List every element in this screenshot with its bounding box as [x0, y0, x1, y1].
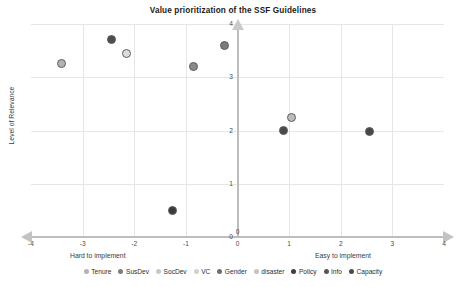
legend-marker-icon: [217, 269, 222, 274]
legend-item-tenure[interactable]: Tenure: [84, 268, 112, 275]
x-tick-label: 0: [228, 240, 248, 247]
x-tick-label: -1: [176, 240, 196, 247]
datapoint-tenure[interactable]: [57, 59, 66, 68]
legend-marker-icon: [84, 269, 89, 274]
y-tick-label: 4: [221, 20, 233, 27]
legend-item-policy[interactable]: Policy: [291, 268, 316, 275]
y-tick-label: 3: [221, 73, 233, 80]
gridline-x--3: [83, 24, 84, 237]
legend-item-label: Capacity: [357, 268, 383, 275]
legend-item-susdev[interactable]: SusDev: [118, 268, 149, 275]
legend-item-label: SusDev: [126, 268, 149, 275]
legend-item-vc[interactable]: VC: [194, 268, 211, 275]
x-tick-label: -2: [124, 240, 144, 247]
legend-item-info[interactable]: Info: [324, 268, 343, 275]
x-axis-label-left: Hard to implement: [70, 252, 126, 259]
x-axis-label-right: Easy to implement: [315, 252, 371, 259]
legend-marker-icon: [118, 269, 123, 274]
x-tick-label: 4: [434, 240, 454, 247]
y-tick-label: 2: [221, 127, 233, 134]
legend-item-label: Policy: [299, 268, 317, 275]
legend-item-socdev[interactable]: SocDev: [156, 268, 187, 275]
legend-marker-icon: [156, 269, 161, 274]
x-tick-label: 1: [279, 240, 299, 247]
legend-marker-icon: [254, 269, 259, 274]
x-tick-label: 3: [382, 240, 402, 247]
datapoint-disaster[interactable]: [168, 206, 177, 215]
chart-title: Value prioritization of the SSF Guidelin…: [0, 6, 466, 15]
y-axis-label: Level of Relevance: [8, 66, 15, 166]
datapoint-gender[interactable]: [220, 41, 229, 50]
datapoint-vc[interactable]: [189, 62, 198, 71]
y-axis-line: [237, 28, 239, 238]
legend-item-label: VC: [201, 268, 210, 275]
datapoint-info[interactable]: [287, 113, 296, 122]
datapoint-socdev[interactable]: [122, 49, 131, 58]
x-tick-label: -3: [73, 240, 93, 247]
legend-marker-icon: [324, 269, 329, 274]
y-axis-up-arrow-icon: [232, 19, 244, 30]
legend-marker-icon: [291, 269, 296, 274]
legend-item-label: SocDev: [164, 268, 187, 275]
legend-item-capacity[interactable]: Capacity: [349, 268, 382, 275]
legend-marker-icon: [194, 269, 199, 274]
gridline-x-1: [289, 24, 290, 237]
y-tick-label: 1: [221, 180, 233, 187]
legend-item-label: disaster: [261, 268, 284, 275]
legend-marker-icon: [349, 269, 354, 274]
legend-item-label: Gender: [225, 268, 247, 275]
datapoint-policy[interactable]: [279, 126, 288, 135]
gridline-x-2: [341, 24, 342, 237]
gridline-x-3: [392, 24, 393, 237]
legend-item-gender[interactable]: Gender: [217, 268, 247, 275]
x-tick-label: 2: [331, 240, 351, 247]
y-tick-label: 0: [221, 233, 233, 240]
gridline-x--1: [186, 24, 187, 237]
legend-item-label: Info: [331, 268, 342, 275]
datapoint-capacity[interactable]: [365, 127, 374, 136]
scatter-chart: Value prioritization of the SSF Guidelin…: [0, 0, 466, 287]
gridline-x--2: [134, 24, 135, 237]
datapoint-susdev[interactable]: [107, 35, 116, 44]
legend-item-disaster[interactable]: disaster: [254, 268, 285, 275]
legend-item-label: Tenure: [91, 268, 111, 275]
chart-legend: TenureSusDevSocDevVCGenderdisasterPolicy…: [0, 268, 466, 275]
x-tick-label: -4: [21, 240, 41, 247]
